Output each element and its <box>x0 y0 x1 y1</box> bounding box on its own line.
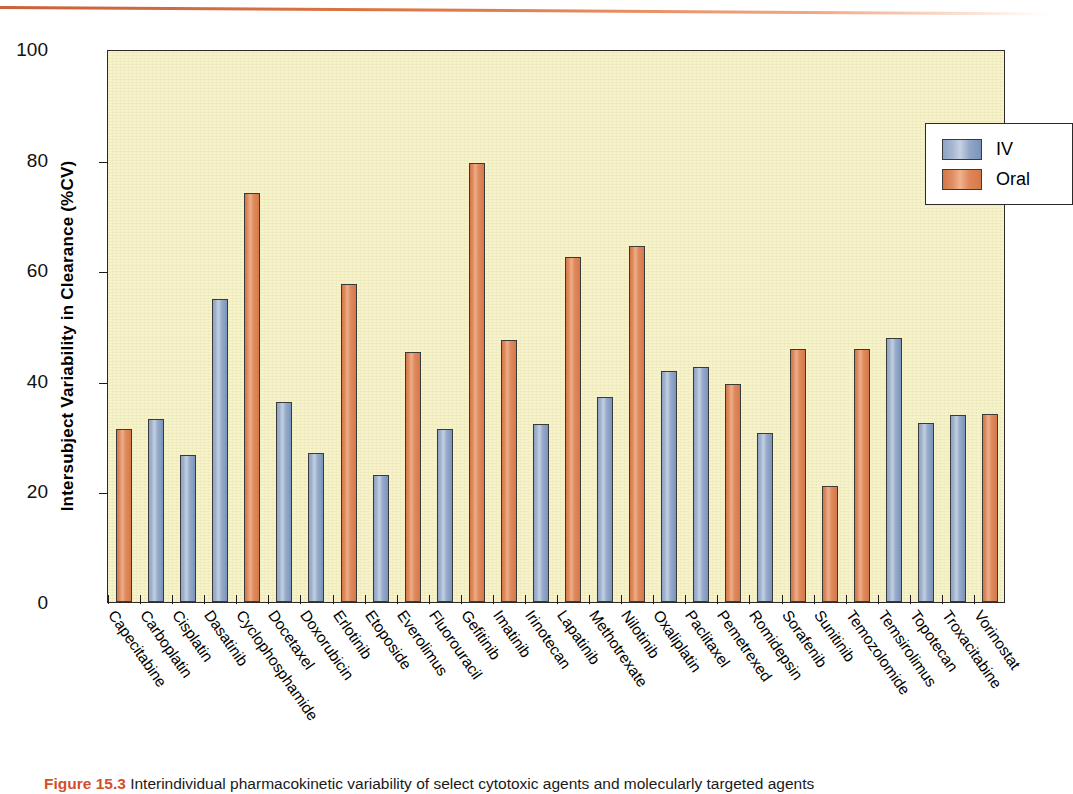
figure-caption: Figure 15.3 Interindividual pharmacokine… <box>44 774 1034 793</box>
bar-sunitinib <box>822 486 838 602</box>
figure-caption-text: Interindividual pharmacokinetic variabil… <box>130 775 814 792</box>
y-axis-tick-labels: 020406080100 <box>0 0 100 794</box>
bar-methotrexate <box>597 397 613 602</box>
bar-temsirolimus <box>886 338 902 602</box>
bar-cyclophosphamide <box>244 193 260 602</box>
bar-topotecan <box>918 423 934 602</box>
bar-pemetrexed <box>725 384 741 602</box>
bar-carboplatin <box>148 419 164 602</box>
figure-caption-label: Figure 15.3 <box>44 775 126 792</box>
bar-vorinostat <box>982 414 998 602</box>
bar-cisplatin <box>180 455 196 602</box>
legend-label-iv: IV <box>996 139 1013 160</box>
bar-irinotecan <box>533 424 549 602</box>
y-axis-tick <box>99 162 108 163</box>
y-axis-tick-label: 100 <box>16 39 48 61</box>
legend: IV Oral <box>925 123 1073 205</box>
bar-docetaxel <box>276 402 292 602</box>
y-axis-tick <box>99 383 108 384</box>
bar-lapatinib <box>565 257 581 602</box>
legend-swatch-oral <box>942 169 982 190</box>
x-axis-labels: CapecitabineCarboplatinCisplatinDasatini… <box>107 603 1005 793</box>
header-rule <box>0 6 1048 15</box>
bar-paclitaxel <box>693 367 709 602</box>
bar-doxorubicin <box>308 453 324 602</box>
plot-area: IV Oral <box>107 50 1005 603</box>
y-axis-tick <box>99 272 108 273</box>
legend-entry-iv: IV <box>942 134 1072 164</box>
bar-erlotinib <box>341 284 357 602</box>
bar-temozolomide <box>854 349 870 602</box>
bar-dasatinib <box>212 299 228 602</box>
bar-nilotinib <box>629 246 645 602</box>
bar-oxaliplatin <box>661 371 677 602</box>
legend-entry-oral: Oral <box>942 164 1072 194</box>
y-axis-tick-label: 80 <box>27 150 48 172</box>
bar-troxacitabine <box>950 415 966 602</box>
y-axis-tick-label: 20 <box>27 481 48 503</box>
y-axis-tick-label: 60 <box>27 260 48 282</box>
legend-label-oral: Oral <box>996 169 1030 190</box>
y-axis-tick-label: 40 <box>27 371 48 393</box>
bar-fluorouracil <box>437 429 453 602</box>
y-axis-tick-label: 0 <box>37 592 48 614</box>
bar-gefitinib <box>469 163 485 602</box>
bar-sorafenib <box>790 349 806 602</box>
y-axis-tick <box>99 493 108 494</box>
bar-etoposide <box>373 475 389 602</box>
legend-swatch-iv <box>942 139 982 160</box>
bar-imatinib <box>501 340 517 602</box>
bar-romidepsin <box>757 433 773 602</box>
bar-everolimus <box>405 352 421 602</box>
bar-capecitabine <box>116 429 132 602</box>
